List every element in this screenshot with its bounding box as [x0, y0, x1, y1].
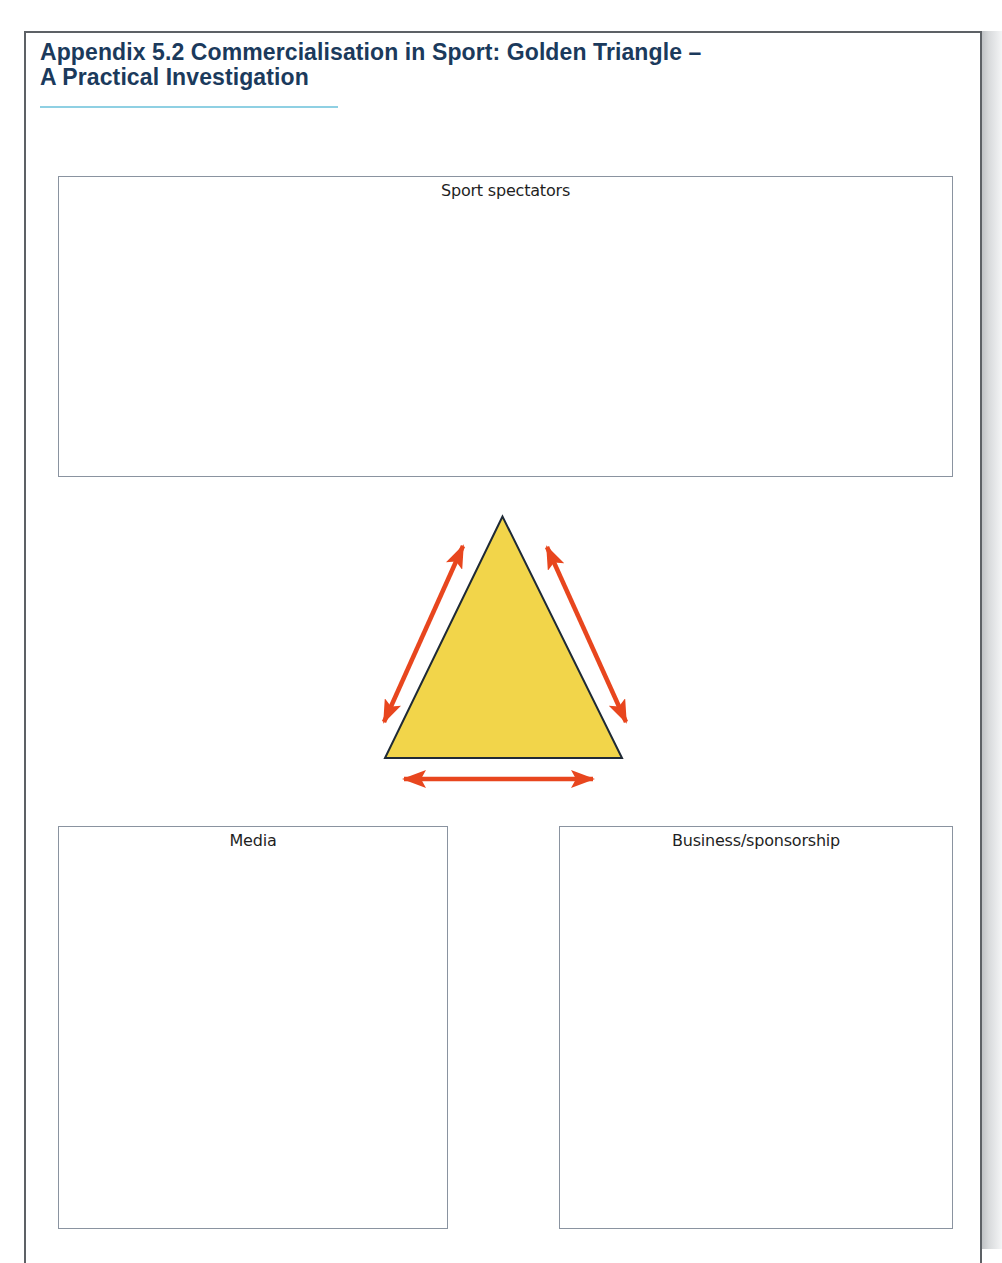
- sport-spectators-box[interactable]: Sport spectators: [58, 176, 953, 477]
- business-sponsorship-box[interactable]: Business/sponsorship: [559, 826, 953, 1229]
- title-line-1: Appendix 5.2 Commercialisation in Sport:…: [40, 40, 701, 65]
- title-line-2: A Practical Investigation: [40, 65, 701, 90]
- media-box[interactable]: Media: [58, 826, 448, 1229]
- title-underline: [40, 106, 338, 108]
- sport-spectators-label: Sport spectators: [59, 181, 952, 201]
- page-shadow: [980, 31, 1002, 1249]
- page-title: Appendix 5.2 Commercialisation in Sport:…: [40, 40, 701, 90]
- media-label: Media: [59, 831, 447, 851]
- business-sponsorship-label: Business/sponsorship: [560, 831, 952, 851]
